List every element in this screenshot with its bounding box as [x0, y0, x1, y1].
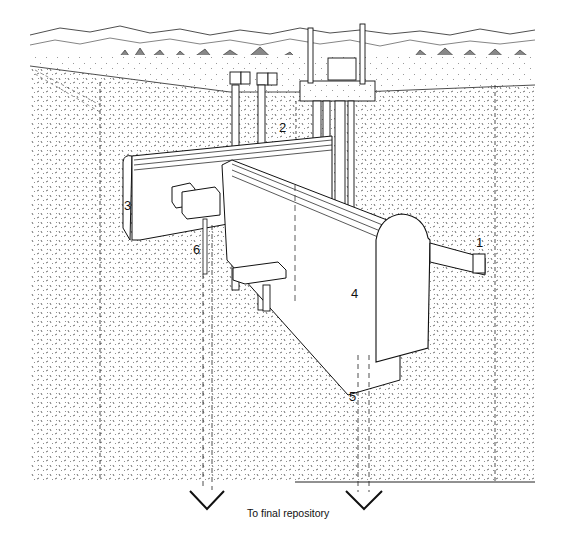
repository-cutaway-diagram: 1 2 3 4 5 6 To final repository: [0, 0, 563, 545]
label-gallery-3: 3: [124, 199, 131, 212]
label-gallery-4: 4: [351, 287, 358, 300]
figure-caption: To final repository: [247, 507, 329, 519]
label-shaft-5: 5: [349, 390, 356, 403]
label-shaft-2: 2: [279, 121, 286, 134]
label-tunnel-1: 1: [476, 236, 483, 249]
diagram-illustration: [0, 0, 563, 545]
label-equipment-6: 6: [193, 243, 200, 256]
